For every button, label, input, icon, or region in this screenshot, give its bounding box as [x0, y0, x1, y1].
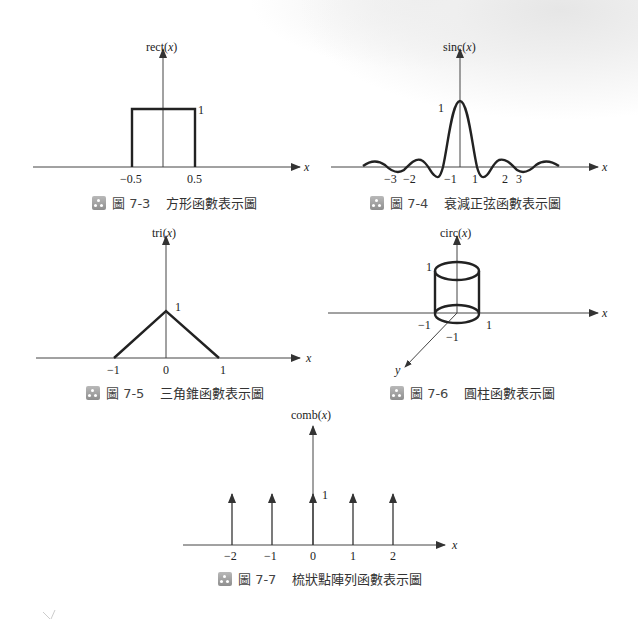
rect-tick-neg: −0.5: [120, 172, 142, 187]
sinc-x-label: x: [602, 160, 607, 175]
figure-icon: [92, 196, 106, 210]
figure-number: 圖 7-5: [106, 383, 144, 402]
rect-plot: [33, 49, 300, 167]
caption-fig-7-3: 圖 7-3 方形函數表示圖: [92, 193, 257, 212]
circ-y-label: circ(x): [440, 226, 471, 241]
tri-height-label: 1: [175, 300, 181, 315]
caption-fig-7-4: 圖 7-4 衰減正弦函數表示圖: [370, 193, 561, 212]
tri-tick: −1: [107, 363, 120, 378]
comb-height-label: 1: [322, 488, 328, 503]
figure-icon: [218, 572, 232, 586]
tri-y-label: tri(x): [152, 226, 176, 241]
circ-height-label: 1: [426, 260, 432, 275]
figure-number: 圖 7-7: [238, 569, 276, 588]
figure-title: 三角錐函數表示圖: [160, 383, 264, 402]
sinc-tick: −2: [403, 172, 416, 187]
caption-fig-7-7: 圖 7-7 梳狀點陣列函數表示圖: [218, 569, 422, 588]
caption-fig-7-6: 圖 7-6 圓柱函數表示圖: [390, 383, 555, 402]
circ-x-label: x: [602, 306, 607, 321]
circ-plot: [328, 236, 598, 367]
comb-plot: [183, 426, 445, 545]
figures-canvas: [0, 0, 638, 619]
figure-number: 圖 7-4: [390, 193, 428, 212]
circ-tick: −1: [418, 318, 431, 333]
sinc-y-label: sinc(x): [443, 40, 476, 55]
caption-fig-7-5: 圖 7-5 三角錐函數表示圖: [86, 383, 264, 402]
rect-height-label: 1: [198, 103, 204, 118]
sinc-tick: 1: [472, 172, 478, 187]
comb-tick: −1: [264, 549, 277, 564]
figure-icon: [390, 386, 404, 400]
tri-plot: [36, 236, 300, 358]
sinc-tick: −1: [444, 172, 457, 187]
circ-tick: −1: [446, 330, 459, 345]
rect-x-label: x: [304, 160, 309, 175]
sinc-tick: 3: [516, 172, 522, 187]
tri-x-label: x: [306, 351, 311, 366]
sinc-tick: 2: [502, 172, 508, 187]
comb-tick: 1: [350, 549, 356, 564]
comb-tick: 2: [390, 549, 396, 564]
circ-y-axis-label: y: [395, 363, 400, 378]
figure-icon: [370, 196, 384, 210]
figure-title: 梳狀點陣列函數表示圖: [292, 569, 422, 588]
tri-tick: 1: [220, 363, 226, 378]
sinc-plot: [331, 49, 598, 177]
comb-x-label: x: [452, 538, 457, 553]
figure-icon: [86, 386, 100, 400]
sinc-height-label: 1: [438, 101, 444, 116]
sinc-tick: −3: [384, 172, 397, 187]
comb-tick: 0: [310, 549, 316, 564]
figure-number: 圖 7-6: [410, 383, 448, 402]
rect-y-label: rect(x): [146, 40, 177, 55]
rect-tick-pos: 0.5: [187, 172, 202, 187]
circ-tick: 1: [486, 318, 492, 333]
figure-title: 圓柱函數表示圖: [464, 383, 555, 402]
tri-tick: 0: [163, 363, 169, 378]
figure-number: 圖 7-3: [112, 193, 150, 212]
figure-title: 方形函數表示圖: [166, 193, 257, 212]
comb-tick: −2: [224, 549, 237, 564]
comb-y-label: comb(x): [291, 408, 331, 423]
figure-title: 衰減正弦函數表示圖: [444, 193, 561, 212]
